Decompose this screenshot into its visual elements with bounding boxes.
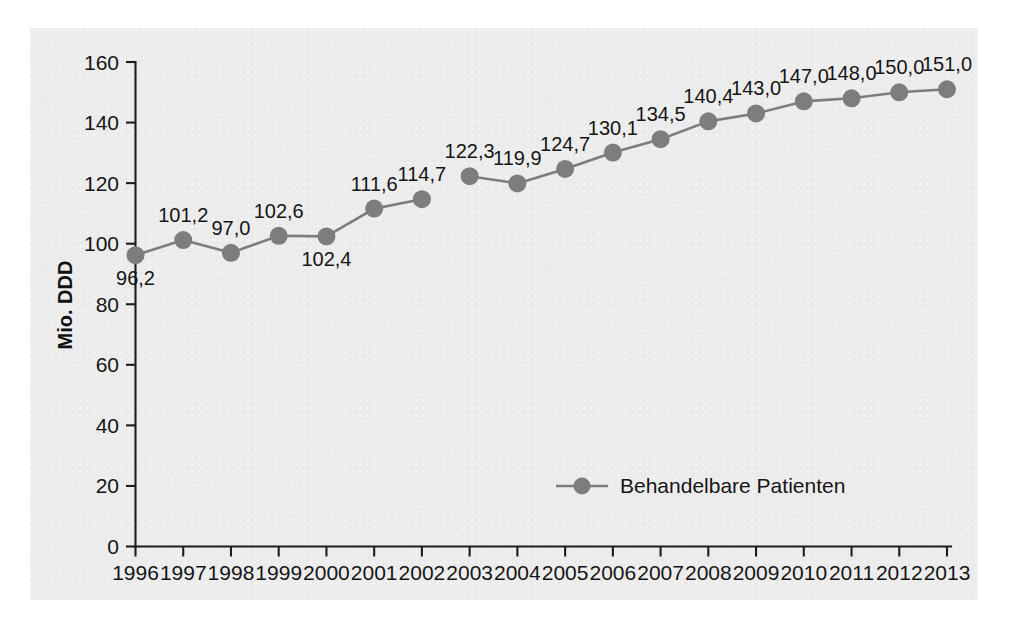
data-point-label: 122,3 xyxy=(445,140,495,162)
data-point-marker xyxy=(747,104,765,122)
data-point-marker xyxy=(795,92,813,110)
data-point-marker xyxy=(365,200,383,218)
x-axis-tick-label: 2006 xyxy=(589,561,636,584)
data-point-marker xyxy=(317,227,335,245)
data-point-marker xyxy=(556,160,574,178)
series-markers xyxy=(127,80,957,264)
x-axis-tick-label: 2004 xyxy=(494,561,541,584)
data-point-label: 150,0 xyxy=(874,56,924,78)
chart-figure: Mio. DDD 020406080100120140160 199619971… xyxy=(0,0,1009,627)
data-point-label: 124,7 xyxy=(540,133,590,155)
x-axis-tick-label: 2008 xyxy=(685,561,732,584)
data-point-label: 96,2 xyxy=(116,267,155,289)
x-axis-tick-label: 1998 xyxy=(208,561,255,584)
x-axis-tick-label: 2007 xyxy=(637,561,684,584)
data-point-label: 101,2 xyxy=(158,204,208,226)
data-point-marker xyxy=(699,112,717,130)
series-polyline xyxy=(136,89,948,255)
x-axis-tick-label: 2002 xyxy=(399,561,446,584)
data-point-label: 134,5 xyxy=(636,103,686,125)
x-axis-tick-label: 2010 xyxy=(780,561,827,584)
data-point-marker xyxy=(174,231,192,249)
y-axis-ticks xyxy=(126,62,136,547)
data-point-label: 114,7 xyxy=(398,163,447,185)
data-point-marker xyxy=(938,80,956,98)
y-axis-tick-label: 20 xyxy=(96,474,119,497)
x-axis-tick-label: 2012 xyxy=(876,561,923,584)
data-point-label: 140,4 xyxy=(683,85,733,107)
data-point-label: 143,0 xyxy=(731,77,781,99)
data-point-marker xyxy=(222,244,240,262)
y-axis-tick-label: 40 xyxy=(96,414,119,437)
y-axis-tick-label: 140 xyxy=(84,111,119,134)
legend-marker-icon xyxy=(574,478,591,495)
data-point-marker xyxy=(270,227,288,245)
y-axis-tick-labels: 020406080100120140160 xyxy=(84,51,119,559)
data-point-label: 151,0 xyxy=(922,53,972,75)
x-axis-ticks xyxy=(136,547,948,557)
data-point-marker xyxy=(413,190,431,208)
legend-label: Behandelbare Patienten xyxy=(620,474,845,497)
data-point-marker xyxy=(890,83,908,101)
x-axis-tick-label: 2011 xyxy=(829,561,874,584)
data-point-marker xyxy=(461,167,479,185)
x-axis-tick-label: 1996 xyxy=(112,561,159,584)
data-point-marker xyxy=(604,144,622,162)
series-value-labels: 96,2101,297,0102,6102,4111,6114,7122,311… xyxy=(116,53,972,289)
y-axis-tick-label: 0 xyxy=(107,535,119,558)
data-point-label: 97,0 xyxy=(212,217,251,239)
x-axis-tick-label: 2003 xyxy=(446,561,493,584)
data-point-label: 102,4 xyxy=(301,248,351,270)
x-axis-tick-label: 2001 xyxy=(351,561,398,584)
data-point-label: 147,0 xyxy=(779,65,829,87)
x-axis-tick-label: 2005 xyxy=(542,561,589,584)
data-point-marker xyxy=(127,246,145,264)
data-point-label: 111,6 xyxy=(351,173,398,195)
y-axis-tick-label: 120 xyxy=(84,172,119,195)
data-point-label: 130,1 xyxy=(588,117,638,139)
data-point-label: 119,9 xyxy=(493,147,542,169)
y-axis-tick-label: 80 xyxy=(96,293,119,316)
data-point-marker xyxy=(508,174,526,192)
line-chart: Mio. DDD 020406080100120140160 199619971… xyxy=(0,0,1009,627)
y-axis-title: Mio. DDD xyxy=(54,261,76,350)
data-point-label: 148,0 xyxy=(826,62,876,84)
x-axis-tick-label: 2013 xyxy=(924,561,971,584)
x-axis-tick-label: 2009 xyxy=(733,561,780,584)
data-point-marker xyxy=(843,89,861,107)
y-axis-tick-label: 160 xyxy=(84,51,119,74)
x-axis-tick-label: 1999 xyxy=(255,561,302,584)
chart-legend: Behandelbare Patienten xyxy=(556,474,845,497)
x-axis-tick-label: 1997 xyxy=(160,561,207,584)
y-axis-tick-label: 60 xyxy=(96,353,119,376)
data-point-marker xyxy=(652,130,670,148)
data-point-label: 102,6 xyxy=(254,200,304,222)
x-axis-tick-labels: 1996199719981999200020012002200320042005… xyxy=(112,561,970,584)
x-axis-tick-label: 2000 xyxy=(303,561,350,584)
y-axis-tick-label: 100 xyxy=(84,232,119,255)
